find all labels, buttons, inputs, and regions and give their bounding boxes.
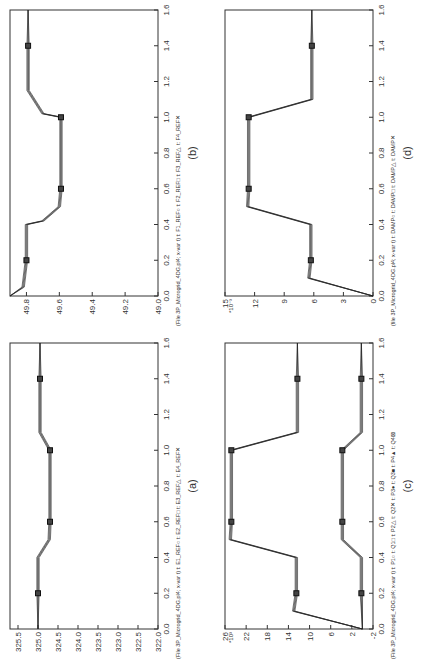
svg-text:324.5: 324.5 [54, 631, 63, 652]
svg-text:0.2: 0.2 [377, 254, 386, 266]
svg-text:49.0: 49.0 [154, 298, 163, 314]
svg-text:0.4: 0.4 [377, 551, 386, 563]
chart-b: 0.00.20.40.60.81.01.21.41.649.049.249.44… [0, 0, 214, 332]
svg-text:22: 22 [242, 631, 251, 640]
svg-text:1.6: 1.6 [377, 337, 386, 349]
svg-text:0: 0 [369, 298, 378, 303]
svg-text:324.0: 324.0 [74, 631, 83, 652]
svg-text:(c): (c) [401, 480, 413, 493]
svg-text:323.0: 323.0 [114, 631, 123, 652]
svg-text:6: 6 [310, 298, 319, 303]
chart-c: 0.00.20.40.60.81.01.21.41.6-226101418222… [215, 333, 429, 665]
svg-text:0.2: 0.2 [162, 254, 171, 266]
svg-text:9: 9 [280, 298, 289, 303]
svg-text:1.6: 1.6 [377, 4, 386, 16]
svg-text:14: 14 [284, 631, 293, 640]
svg-text:18: 18 [263, 631, 272, 640]
panel-c: 0.00.20.40.60.81.01.21.41.6-226101418222… [215, 333, 429, 665]
svg-text:1.2: 1.2 [377, 75, 386, 87]
svg-text:0.4: 0.4 [162, 551, 171, 563]
svg-text:*10⁻³: *10⁻³ [228, 299, 234, 313]
panel-d: 0.00.20.40.60.81.01.21.41.603691215*10⁻³… [215, 0, 429, 332]
svg-text:49.2: 49.2 [121, 298, 130, 314]
svg-text:0.6: 0.6 [377, 183, 386, 195]
svg-text:0.0: 0.0 [377, 623, 386, 635]
svg-text:1.4: 1.4 [377, 373, 386, 385]
chart-d: 0.00.20.40.60.81.01.21.41.603691215*10⁻³… [215, 0, 429, 332]
svg-text:0.0: 0.0 [162, 290, 171, 302]
svg-text:0.6: 0.6 [162, 516, 171, 528]
chart-a: 0.00.20.40.60.81.01.21.41.6322.0322.5323… [0, 333, 214, 665]
svg-text:0.2: 0.2 [377, 587, 386, 599]
svg-text:0.0: 0.0 [162, 623, 171, 635]
svg-text:10: 10 [306, 631, 315, 640]
svg-text:(file 3P_Microgrid_4DG.pl4; x-: (file 3P_Microgrid_4DG.pl4; x-var t) t: … [390, 135, 396, 326]
svg-text:1.2: 1.2 [162, 408, 171, 420]
svg-text:-2: -2 [369, 631, 378, 639]
svg-text:1.4: 1.4 [162, 373, 171, 385]
svg-text:323.5: 323.5 [94, 631, 103, 652]
svg-text:325.5: 325.5 [14, 631, 23, 652]
svg-text:0.4: 0.4 [162, 218, 171, 230]
svg-text:322.5: 322.5 [134, 631, 143, 652]
svg-text:49.6: 49.6 [55, 298, 64, 314]
svg-text:1.0: 1.0 [377, 444, 386, 456]
svg-text:(a): (a) [186, 479, 198, 492]
svg-text:1.2: 1.2 [377, 408, 386, 420]
svg-text:(b): (b) [186, 146, 198, 159]
svg-text:0.0: 0.0 [377, 290, 386, 302]
svg-text:0.2: 0.2 [162, 587, 171, 599]
svg-text:0.6: 0.6 [377, 516, 386, 528]
svg-text:*10³: *10³ [228, 632, 234, 643]
svg-text:322.0: 322.0 [154, 631, 163, 652]
panel-a: 0.00.20.40.60.81.01.21.41.6322.0322.5323… [0, 333, 214, 665]
svg-text:1.6: 1.6 [162, 337, 171, 349]
svg-text:(File 3P_Microgrid_4DG.pl4; x-: (File 3P_Microgrid_4DG.pl4; x-var t) t: … [390, 432, 396, 659]
svg-text:0.8: 0.8 [377, 147, 386, 159]
svg-text:1.2: 1.2 [162, 75, 171, 87]
svg-text:49.4: 49.4 [88, 298, 97, 314]
svg-text:49.8: 49.8 [22, 298, 31, 314]
svg-text:0.8: 0.8 [162, 147, 171, 159]
svg-text:1.0: 1.0 [162, 444, 171, 456]
svg-text:0.8: 0.8 [162, 480, 171, 492]
panel-b: 0.00.20.40.60.81.01.21.41.649.049.249.44… [0, 0, 214, 332]
svg-text:(File 3P_Microgrid_4DG.pl4; x-: (File 3P_Microgrid_4DG.pl4; x-var t) t: … [175, 115, 181, 326]
svg-text:0.4: 0.4 [377, 218, 386, 230]
svg-text:1.4: 1.4 [377, 40, 386, 52]
svg-text:12: 12 [251, 298, 260, 307]
svg-text:0.8: 0.8 [377, 480, 386, 492]
svg-text:325.0: 325.0 [34, 631, 43, 652]
svg-text:0.6: 0.6 [162, 183, 171, 195]
svg-text:6: 6 [327, 631, 336, 636]
svg-text:2: 2 [348, 631, 357, 636]
svg-text:(File 3P_Microgrid_4DG.pl4; x-: (File 3P_Microgrid_4DG.pl4; x-var t) t: … [175, 447, 181, 659]
svg-text:1.0: 1.0 [377, 111, 386, 123]
svg-text:1.6: 1.6 [162, 4, 171, 16]
svg-text:1.0: 1.0 [162, 111, 171, 123]
svg-text:3: 3 [339, 298, 348, 303]
svg-text:1.4: 1.4 [162, 40, 171, 52]
svg-text:(d): (d) [401, 146, 413, 159]
